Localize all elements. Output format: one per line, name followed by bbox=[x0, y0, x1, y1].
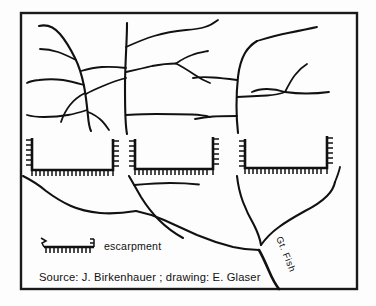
river-east-branch-sw bbox=[195, 116, 237, 119]
river-lower-west-arm bbox=[23, 176, 136, 213]
river-gt-fish-outflow bbox=[259, 250, 279, 289]
escarpment-central-bracket bbox=[135, 137, 213, 169]
river-network-upper bbox=[27, 20, 329, 134]
river-east-branch-e bbox=[285, 92, 329, 94]
river-west-branch-mid bbox=[27, 79, 84, 85]
river-central-branch-e4 bbox=[126, 114, 210, 117]
river-central-branch-e1 bbox=[126, 64, 176, 73]
source-caption: Source: J. Birkenhauer ; drawing: E. Gla… bbox=[39, 271, 261, 283]
legend-label: escarpment bbox=[104, 240, 161, 252]
escarpment-west-bracket bbox=[32, 138, 113, 170]
river-label-gt-fish: Gt. Fish bbox=[274, 235, 298, 274]
river-east-trunk bbox=[237, 41, 258, 133]
river-central-branch-e2 bbox=[176, 64, 210, 84]
escarpment-central bbox=[129, 137, 219, 175]
river-east-branch-mid bbox=[237, 92, 285, 97]
escarpment-west bbox=[26, 138, 119, 176]
river-west-branch-lower bbox=[61, 93, 85, 122]
map-figure: escarpment Source: J. Birkenhauer ; draw… bbox=[0, 0, 376, 306]
river-west-tributary-short bbox=[88, 112, 109, 130]
river-central-branch-e3 bbox=[176, 51, 208, 64]
river-east-branch-hook bbox=[252, 89, 285, 92]
river-central-branch-ne bbox=[126, 20, 218, 47]
river-lower-east-bend bbox=[261, 182, 335, 245]
river-east-lower-tributary bbox=[335, 167, 340, 182]
river-central-branch-w1 bbox=[81, 67, 126, 71]
escarpment-east-bracket bbox=[245, 136, 327, 168]
river-central-branch-w2 bbox=[86, 78, 126, 94]
river-lower-east-arm bbox=[237, 176, 261, 245]
river-lower-central-stub bbox=[134, 183, 199, 185]
legend-symbol-left-hook bbox=[41, 238, 46, 247]
river-east-branch-n bbox=[257, 27, 317, 41]
escarpment-east bbox=[239, 136, 333, 174]
map-drawing: escarpment Source: J. Birkenhauer ; draw… bbox=[0, 0, 376, 306]
river-west-branch-foot bbox=[27, 110, 87, 117]
legend-escarpment-symbol bbox=[41, 238, 94, 253]
river-east-branch-ne bbox=[285, 64, 307, 92]
